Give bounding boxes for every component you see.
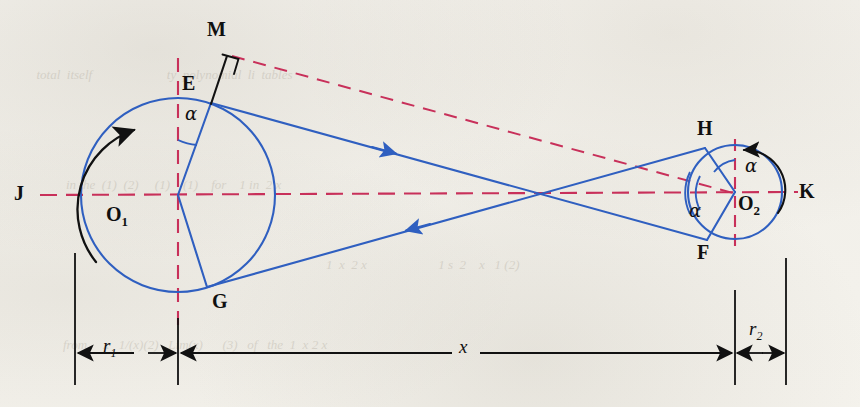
angle-label-alpha-pulley2-lower: α — [689, 200, 701, 221]
point-label-J: J — [14, 182, 24, 205]
belt-run-E-to-F — [211, 103, 707, 240]
figure-container: total itself ty polynomial li tables in … — [0, 0, 860, 407]
center-label-O1: O1 — [106, 203, 128, 230]
line-E-to-M — [211, 56, 227, 104]
belt-run-H-to-G — [207, 148, 705, 287]
belt-arrow-upper — [372, 147, 396, 154]
point-label-G: G — [212, 290, 228, 313]
angle-arc-alpha-O1 — [178, 140, 197, 145]
rotation-arrow-pulley1 — [77, 130, 134, 262]
point-label-H: H — [697, 117, 713, 140]
radius-O2-F — [707, 192, 735, 240]
center-label-O1-base: O — [106, 203, 122, 225]
construction-line-M-to-O2 — [232, 56, 733, 193]
perpendicular-construction-group — [211, 55, 239, 105]
point-label-F: F — [697, 241, 709, 264]
center-label-O2: O2 — [738, 192, 760, 219]
rotation-arrow-group — [77, 130, 785, 262]
dimension-label-r2-subscript: 2 — [756, 329, 762, 343]
center-label-O2-subscript: 2 — [754, 203, 761, 218]
dimension-label-r1-subscript: 1 — [110, 346, 116, 360]
diagram-canvas — [0, 0, 860, 407]
dimension-label-x: x — [459, 336, 467, 358]
center-label-O2-base: O — [738, 192, 754, 214]
point-label-K: K — [799, 180, 815, 203]
angle-label-alpha-pulley1: α — [185, 103, 197, 124]
point-label-E: E — [182, 72, 195, 95]
dimension-label-r1: r1 — [103, 335, 116, 361]
radius-O1-G — [178, 195, 207, 287]
center-label-O1-subscript: 1 — [122, 214, 129, 229]
angle-label-alpha-pulley2-upper: α — [745, 155, 757, 176]
dimension-group — [75, 253, 786, 385]
dimension-label-r2: r2 — [749, 318, 762, 344]
point-label-M: M — [207, 18, 226, 41]
angle-arc-group — [178, 140, 735, 214]
radius-O2-H — [705, 148, 735, 192]
belt-arrow-lower — [406, 224, 430, 231]
